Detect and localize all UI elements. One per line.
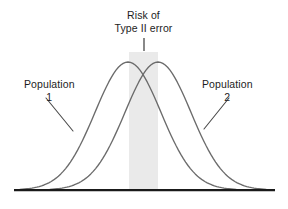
population-1-label: Population 1	[24, 78, 75, 103]
population-2-label: Population 2	[202, 78, 253, 103]
type-ii-error-figure: Risk of Type II error Population 1 Popul…	[0, 0, 288, 209]
title-line-2: Type II error	[0, 22, 288, 35]
population-1-name: Population	[24, 78, 75, 91]
title-line-1: Risk of	[0, 9, 288, 22]
population-2-number: 2	[202, 91, 253, 104]
population-2-name: Population	[202, 78, 253, 91]
population-1-number: 1	[24, 91, 75, 104]
risk-of-type-ii-error-label: Risk of Type II error	[0, 9, 288, 34]
